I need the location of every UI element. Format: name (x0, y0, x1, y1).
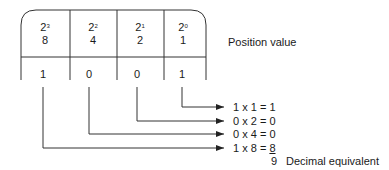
equation-lhs: 0 x 4 = (233, 128, 269, 140)
position-value-label: Position value (228, 36, 297, 48)
position-cell-2-2: 22 4 (70, 21, 116, 47)
sum-value: 9 (271, 155, 277, 167)
position-cell-2-0: 20 1 (160, 21, 206, 47)
exponent: 2 (94, 23, 97, 29)
bit-value: 1 (159, 68, 205, 80)
place-value: 1 (180, 34, 186, 46)
equation-row: 0 x 4 = 0 (233, 128, 276, 140)
equation-lhs: 1 x 1 = (233, 101, 269, 113)
bit-value: 1 (20, 68, 66, 80)
equation-result: 0 (269, 128, 275, 140)
equation-lhs: 0 x 2 = (233, 115, 269, 127)
exponent: 0 (184, 23, 187, 29)
exponent: 3 (46, 23, 49, 29)
place-value: 8 (42, 34, 48, 46)
position-cell-2-1: 21 2 (117, 21, 163, 47)
decimal-equivalent-label: Decimal equivalent (286, 155, 379, 167)
equation-row: 1 x 1 = 1 (233, 101, 276, 113)
exponent: 1 (141, 23, 144, 29)
position-cell-2-3: 23 8 (22, 21, 68, 47)
bit-value: 0 (66, 68, 112, 80)
equation-result: 0 (269, 115, 275, 127)
equation-row: 1 x 8 = 8 (233, 142, 276, 154)
place-value: 2 (137, 34, 143, 46)
equation-row: 0 x 2 = 0 (233, 115, 276, 127)
equation-result: 1 (269, 101, 275, 113)
equation-lhs: 1 x 8 = (233, 142, 269, 154)
equation-result: 8 (269, 142, 275, 154)
bit-value: 0 (114, 68, 160, 80)
place-value: 4 (90, 34, 96, 46)
